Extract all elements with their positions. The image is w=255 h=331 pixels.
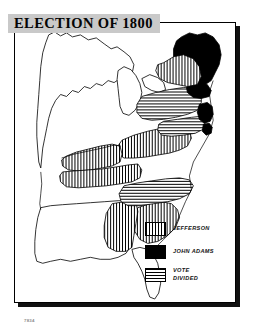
legend-swatch-vote-divided: [145, 268, 166, 282]
legend-label-vote-divided: VOTE DIVIDED: [173, 267, 198, 282]
map-legend: JEFFERSON JOHN ADAMS VOTE DIVIDED: [145, 221, 229, 290]
legend-label-jefferson: JEFFERSON: [173, 225, 210, 233]
legend-swatch-jefferson: [145, 222, 166, 236]
legend-item-john-adams: JOHN ADAMS: [145, 244, 229, 260]
region-kentucky: [62, 144, 122, 171]
region-georgia: [104, 202, 138, 252]
credit-mark: 7834: [24, 318, 35, 323]
map-frame: JEFFERSON JOHN ADAMS VOTE DIVIDED 7834: [14, 22, 236, 303]
page-title: ELECTION OF 1800: [14, 15, 153, 31]
legend-swatch-john-adams: [145, 245, 166, 259]
river-mississippi: [40, 172, 42, 210]
legend-item-jefferson: JEFFERSON: [145, 221, 229, 237]
legend-label-john-adams: JOHN ADAMS: [173, 248, 214, 256]
legend-item-vote-divided: VOTE DIVIDED: [145, 267, 229, 283]
title-banner: ELECTION OF 1800: [8, 14, 160, 33]
